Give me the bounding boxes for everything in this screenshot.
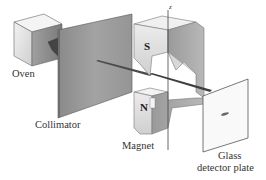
- south-pole-label: S: [144, 40, 150, 52]
- plate-label-line2: detector plate: [197, 162, 254, 173]
- north-pole-label: N: [140, 101, 148, 113]
- oven-label: Oven: [12, 68, 35, 79]
- magnet-label: Magnet: [122, 140, 154, 151]
- stern-gerlach-diagram: S N z Oven Collimator Magnet Glass detec…: [0, 0, 266, 180]
- oven: [14, 14, 62, 66]
- plate-label-line1: Glass: [218, 150, 241, 161]
- collimator-label: Collimator: [35, 119, 81, 130]
- z-axis-label: z: [169, 3, 172, 11]
